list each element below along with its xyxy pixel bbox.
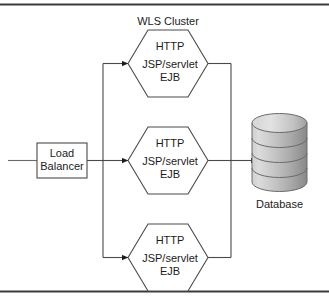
database-body bbox=[252, 123, 307, 192]
database-top-ellipse bbox=[252, 114, 307, 133]
cluster-node-1[interactable]: HTTP JSP/servlet EJB bbox=[128, 30, 208, 97]
database-cylinder[interactable]: Database bbox=[252, 114, 307, 211]
cluster-node-3[interactable]: HTTP JSP/servlet EJB bbox=[128, 224, 208, 291]
cluster-node-2-http: HTTP bbox=[156, 137, 185, 149]
load-balancer-label-line1: Load bbox=[50, 147, 74, 159]
database-caption: Database bbox=[256, 198, 303, 210]
cluster-node-1-jsp-servlet: JSP/servlet bbox=[142, 58, 198, 70]
cluster-node-3-jsp-servlet: JSP/servlet bbox=[142, 252, 198, 264]
cluster-node-2[interactable]: HTTP JSP/servlet EJB bbox=[128, 127, 208, 194]
cluster-node-3-http: HTTP bbox=[156, 234, 185, 246]
cluster-node-1-ejb: EJB bbox=[160, 71, 180, 83]
figure-container: Load Balancer WLS Cluster HTTP JSP/servl… bbox=[0, 0, 329, 306]
cluster-title: WLS Cluster bbox=[137, 15, 199, 27]
cluster-node-2-ejb: EJB bbox=[160, 168, 180, 180]
architecture-diagram: Load Balancer WLS Cluster HTTP JSP/servl… bbox=[0, 0, 329, 306]
cluster-node-1-http: HTTP bbox=[156, 40, 185, 52]
cluster-node-2-jsp-servlet: JSP/servlet bbox=[142, 155, 198, 167]
load-balancer-label-line2: Balancer bbox=[40, 160, 84, 172]
cluster-node-3-ejb: EJB bbox=[160, 265, 180, 277]
